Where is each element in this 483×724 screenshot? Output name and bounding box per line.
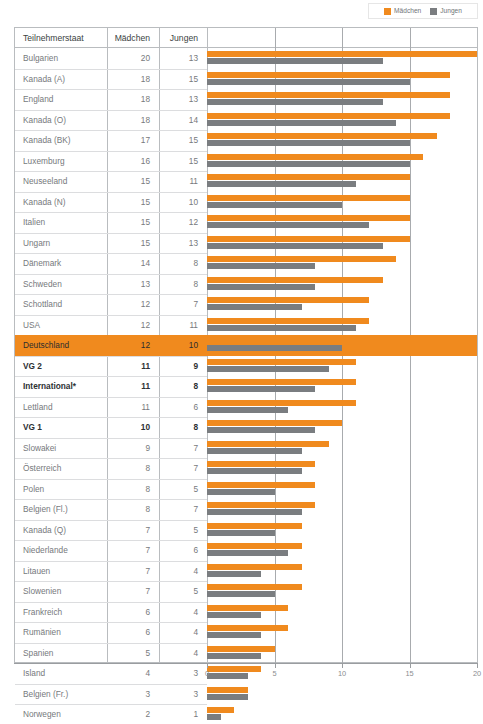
- table-row[interactable]: Slowenien75: [15, 581, 477, 602]
- bar-boys: [207, 550, 288, 556]
- table-row[interactable]: Kanada (Q)75: [15, 520, 477, 541]
- row-bars: [207, 581, 478, 602]
- table-body: Bulgarien2013Kanada (A)1815England1813Ka…: [15, 48, 477, 724]
- cell-boys: 8: [159, 417, 207, 438]
- cell-state: Rumänien: [15, 622, 107, 643]
- cell-boys: 7: [159, 499, 207, 520]
- row-bars: [207, 212, 478, 233]
- table-row[interactable]: Belgien (Fr.)33: [15, 684, 477, 705]
- cell-state: Luxemburg: [15, 151, 107, 172]
- cell-girls: 16: [107, 151, 159, 172]
- bar-boys: [207, 407, 288, 413]
- table-row[interactable]: Niederlande76: [15, 540, 477, 561]
- table-row[interactable]: Slowakei97: [15, 438, 477, 459]
- table-row[interactable]: VG 1108: [15, 417, 477, 438]
- bar-boys: [207, 653, 261, 659]
- column-header-boys: Jungen: [159, 28, 207, 48]
- table-row[interactable]: Kanada (A)1815: [15, 69, 477, 90]
- row-bars: [207, 479, 478, 500]
- row-bars: [207, 192, 478, 213]
- table-row[interactable]: Belgien (Fl.)87: [15, 499, 477, 520]
- bar-girls: [207, 461, 315, 467]
- table-row[interactable]: Schweden138: [15, 274, 477, 295]
- table-row[interactable]: Kanada (O)1814: [15, 110, 477, 131]
- bar-girls: [207, 646, 275, 652]
- cell-girls: 15: [107, 192, 159, 213]
- bar-boys: [207, 673, 248, 679]
- cell-state: Litauen: [15, 561, 107, 582]
- table-row[interactable]: Norwegen21: [15, 704, 477, 724]
- table-row[interactable]: England1813: [15, 89, 477, 110]
- bar-girls: [207, 441, 329, 447]
- bar-girls: [207, 297, 369, 303]
- table-row[interactable]: Rumänien64: [15, 622, 477, 643]
- bar-boys: [207, 79, 410, 85]
- bar-boys: [207, 304, 302, 310]
- cell-girls: 14: [107, 253, 159, 274]
- cell-boys: 1: [159, 704, 207, 724]
- table-row[interactable]: Neuseeland1511: [15, 171, 477, 192]
- table-row[interactable]: Österreich87: [15, 458, 477, 479]
- bar-boys: [207, 99, 383, 105]
- cell-boys: 3: [159, 663, 207, 684]
- bar-boys: [207, 181, 356, 187]
- table-row[interactable]: Schottland127: [15, 294, 477, 315]
- bar-boys: [207, 386, 315, 392]
- legend-label-boys: Jungen: [440, 8, 462, 15]
- cell-boys: 8: [159, 253, 207, 274]
- cell-state: Polen: [15, 479, 107, 500]
- legend-swatch-boys-icon: [430, 8, 437, 15]
- table-row[interactable]: VG 2119: [15, 356, 477, 377]
- cell-girls: 11: [107, 356, 159, 377]
- bar-boys: [207, 325, 356, 331]
- table-row[interactable]: Kanada (N)1510: [15, 192, 477, 213]
- cell-girls: 10: [107, 417, 159, 438]
- bar-girls: [207, 666, 261, 672]
- bar-boys: [207, 243, 383, 249]
- table-row[interactable]: International*118: [15, 376, 477, 397]
- x-tick-0: [207, 663, 208, 668]
- x-tick-label-15: 15: [405, 669, 413, 678]
- cell-girls: 4: [107, 663, 159, 684]
- cell-boys: 14: [159, 110, 207, 131]
- cell-boys: 13: [159, 233, 207, 254]
- cell-girls: 6: [107, 602, 159, 623]
- cell-state: Lettland: [15, 397, 107, 418]
- table-row[interactable]: Dänemark148: [15, 253, 477, 274]
- bar-boys: [207, 632, 261, 638]
- table-row[interactable]: Italien1512: [15, 212, 477, 233]
- cell-state: Belgien (Fl.): [15, 499, 107, 520]
- cell-boys: 5: [159, 479, 207, 500]
- table-row[interactable]: Bulgarien2013: [15, 48, 477, 69]
- cell-state: International*: [15, 376, 107, 397]
- bar-boys: [207, 509, 302, 515]
- table-row[interactable]: Lettland116: [15, 397, 477, 418]
- bar-boys: [207, 263, 315, 269]
- bar-boys: [207, 345, 342, 351]
- table-row[interactable]: Spanien54: [15, 643, 477, 664]
- table-row[interactable]: USA1211: [15, 315, 477, 336]
- x-tick-5: [275, 663, 276, 668]
- table-row[interactable]: Luxemburg1615: [15, 151, 477, 172]
- cell-girls: 11: [107, 397, 159, 418]
- bar-girls: [207, 379, 356, 385]
- cell-boys: 4: [159, 602, 207, 623]
- row-bars: [207, 520, 478, 541]
- cell-boys: 13: [159, 89, 207, 110]
- table-row[interactable]: Frankreich64: [15, 602, 477, 623]
- row-bars: [207, 69, 478, 90]
- cell-boys: 3: [159, 684, 207, 705]
- table-row[interactable]: Kanada (BK)1715: [15, 130, 477, 151]
- chart-legend: Mädchen Jungen: [368, 3, 478, 19]
- table-row[interactable]: Deutschland1210: [15, 335, 477, 356]
- bar-girls: [207, 236, 410, 242]
- table-row[interactable]: Litauen74: [15, 561, 477, 582]
- cell-state: Frankreich: [15, 602, 107, 623]
- table-row[interactable]: Ungarn1513: [15, 233, 477, 254]
- row-bars: [207, 643, 478, 664]
- row-bars: [207, 274, 478, 295]
- bar-boys: [207, 612, 261, 618]
- bar-girls: [207, 707, 234, 713]
- table-row[interactable]: Polen85: [15, 479, 477, 500]
- row-bars: [207, 356, 478, 377]
